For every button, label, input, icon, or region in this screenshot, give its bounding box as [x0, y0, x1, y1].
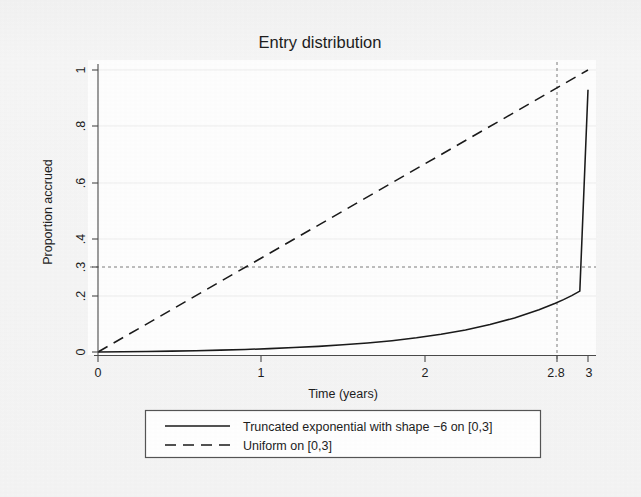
ytick-label-04: .4 [74, 234, 88, 244]
entry-distribution-chart: Entry distribution [0, 0, 641, 497]
ytick-label-0: 0 [74, 348, 88, 355]
legend-label-uniform: Uniform on [0,3] [243, 439, 332, 453]
y-axis-ticks [92, 70, 98, 352]
series-truncated-exponential [98, 90, 588, 352]
y-axis-tick-labels: 1 .8 .6 .4 .3 .2 0 [74, 66, 88, 355]
chart-legend: Truncated exponential with shape −6 on [… [146, 411, 541, 458]
x-axis-tick-labels: 0 1 2 2.8 3 [95, 366, 593, 380]
legend-label-truncated-exponential: Truncated exponential with shape −6 on [… [243, 420, 492, 434]
chart-title: Entry distribution [259, 33, 382, 51]
gridlines [98, 70, 596, 296]
xtick-label-1: 1 [258, 366, 265, 380]
xtick-label-0: 0 [95, 366, 102, 380]
xtick-label-28: 2.8 [547, 366, 564, 380]
xtick-label-2: 2 [422, 366, 429, 380]
ytick-label-1: 1 [74, 66, 88, 73]
ytick-label-03: .3 [74, 262, 88, 272]
series-uniform [98, 70, 588, 352]
ytick-label-08: .8 [74, 121, 88, 131]
x-axis-ticks [98, 356, 588, 362]
xtick-label-3: 3 [586, 366, 593, 380]
ytick-label-02: .2 [74, 291, 88, 301]
y-axis-title: Proportion accrued [41, 159, 55, 265]
legend-box [146, 411, 541, 458]
figure-container: Entry distribution [0, 0, 641, 497]
x-axis-title: Time (years) [308, 387, 378, 401]
ytick-label-06: .6 [74, 178, 88, 188]
